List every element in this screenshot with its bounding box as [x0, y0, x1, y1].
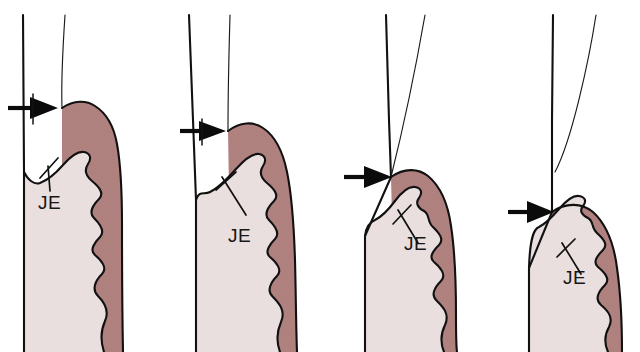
je-label-1: JE: [38, 192, 61, 213]
je-label-2: JE: [228, 225, 251, 246]
je-label-4: JE: [563, 267, 586, 288]
dental-illustration-figure: JE JE: [0, 0, 640, 352]
illustration-canvas: JE JE: [0, 0, 640, 352]
tooth-left-border-1: [23, 15, 24, 352]
je-label-3: JE: [404, 233, 427, 254]
